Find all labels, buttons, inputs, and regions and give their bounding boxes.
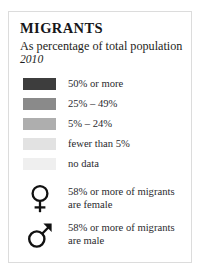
legend-swatch-label: 5% – 24% (68, 119, 112, 130)
legend-year: 2010 (20, 54, 191, 67)
legend-swatch-label: 50% or more (68, 79, 123, 90)
legend-swatch-label: fewer than 5% (68, 139, 130, 150)
list-item: fewer than 5% (9, 134, 191, 154)
legend-swatch-label: 25% – 49% (68, 99, 117, 110)
page-title: MIGRANTS (20, 21, 191, 36)
mars-symbol-icon (23, 221, 56, 249)
list-item: 25% – 49% (9, 94, 191, 114)
legend-gender-list: 58% or more of migrants are female 58% o… (9, 181, 191, 253)
legend-gender-line2: are male (68, 235, 104, 246)
legend-subtitle: As percentage of total population (20, 39, 191, 53)
legend-gender-line2: are female (68, 199, 112, 210)
list-item: 50% or more (9, 74, 191, 94)
legend-swatch-label: no data (68, 159, 99, 170)
color-swatch-icon (23, 118, 56, 130)
list-item: 58% or more of migrants are female (9, 181, 191, 217)
map-legend-panel: MIGRANTS As percentage of total populati… (8, 11, 192, 263)
color-swatch-icon (23, 78, 56, 90)
legend-gender-label: 58% or more of migrants are female (68, 186, 175, 212)
legend-gender-line1: 58% or more of migrants (68, 186, 175, 197)
legend-swatch-list: 50% or more 25% – 49% 5% – 24% fewer tha… (9, 74, 191, 174)
color-swatch-icon (23, 98, 56, 110)
venus-symbol-icon (23, 184, 56, 214)
list-item: 5% – 24% (9, 114, 191, 134)
list-item: 58% or more of migrants are male (9, 217, 191, 253)
legend-gender-line1: 58% or more of migrants (68, 222, 175, 233)
legend-gender-label: 58% or more of migrants are male (68, 222, 175, 248)
legend-header: MIGRANTS As percentage of total populati… (9, 12, 191, 66)
color-swatch-icon (23, 158, 56, 170)
list-item: no data (9, 154, 191, 174)
color-swatch-icon (23, 138, 56, 150)
